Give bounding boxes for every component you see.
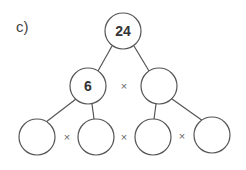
level2-circle-1[interactable] (19, 119, 55, 155)
edge-left-ll (46, 99, 76, 122)
level2-node-4[interactable] (194, 117, 230, 153)
level1-left-node: 6 (70, 68, 106, 104)
edge-left-lr (92, 104, 94, 119)
level2-circle-3[interactable] (135, 119, 171, 155)
level2-node-1[interactable] (19, 119, 55, 155)
factor-tree-diagram: 24 6 × × × × (0, 0, 246, 170)
times-icon: × (121, 80, 127, 92)
edge-root-left (98, 46, 112, 71)
level1-right-circle[interactable] (141, 68, 177, 104)
edge-right-rl (154, 104, 156, 119)
level2-node-2[interactable] (78, 119, 114, 155)
level2-circle-4[interactable] (194, 117, 230, 153)
edge-right-rr (172, 99, 203, 121)
times-icon: × (179, 130, 185, 142)
times-icon: × (64, 131, 70, 143)
edge-root-right (134, 46, 149, 71)
level1-left-value: 6 (84, 78, 92, 94)
level2-node-3[interactable] (135, 119, 171, 155)
root-node: 24 (105, 13, 141, 49)
level1-right-node[interactable] (141, 68, 177, 104)
root-value: 24 (115, 23, 131, 39)
level2-circle-2[interactable] (78, 119, 114, 155)
times-icon: × (121, 131, 127, 143)
